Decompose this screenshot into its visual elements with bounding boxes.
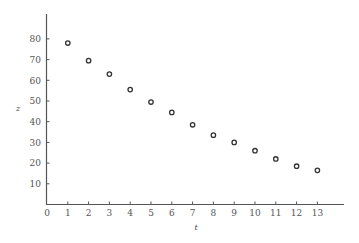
y-tick-label: 30 — [30, 138, 42, 148]
y-tick-label: 50 — [30, 96, 42, 106]
y-tick-label: 20 — [30, 158, 42, 168]
data-points — [66, 41, 320, 173]
x-tick-label: 13 — [312, 208, 324, 218]
data-point — [128, 87, 132, 91]
y-tick-label: 80 — [30, 34, 42, 44]
x-tick-label: 1 — [65, 208, 71, 218]
x-tick-label: 5 — [148, 208, 154, 218]
x-tick-label: 0 — [44, 208, 50, 218]
data-point — [274, 157, 278, 161]
data-point — [149, 100, 153, 104]
data-point — [253, 148, 257, 152]
data-point — [315, 168, 319, 172]
x-tick-label: 11 — [270, 208, 281, 218]
y-tick-label: 10 — [30, 179, 42, 189]
x-tick-label: 4 — [127, 208, 133, 218]
x-tick-label: 3 — [107, 208, 113, 218]
data-point — [107, 72, 111, 76]
x-tick-label: 6 — [169, 208, 175, 218]
y-tick-label: 60 — [30, 76, 42, 86]
data-point — [190, 123, 194, 127]
x-tick-label: 10 — [249, 208, 261, 218]
x-tick-label: 7 — [190, 208, 196, 218]
y-tick-label: 40 — [30, 117, 42, 127]
data-point — [211, 133, 215, 137]
data-point — [66, 41, 70, 45]
x-tick-label: 9 — [231, 208, 237, 218]
x-tick-label: 8 — [211, 208, 217, 218]
x-tick-label: 2 — [86, 208, 92, 218]
data-point — [294, 164, 298, 168]
data-point — [232, 140, 236, 144]
y-tick-label: 70 — [30, 55, 42, 65]
scatter-chart: 1020304050607080 012345678910111213 t z — [0, 0, 359, 243]
y-axis-label: z — [15, 104, 21, 113]
x-axis-label: t — [194, 223, 198, 232]
x-tick-label: 12 — [291, 208, 302, 218]
data-point — [86, 58, 90, 62]
data-point — [170, 110, 174, 114]
